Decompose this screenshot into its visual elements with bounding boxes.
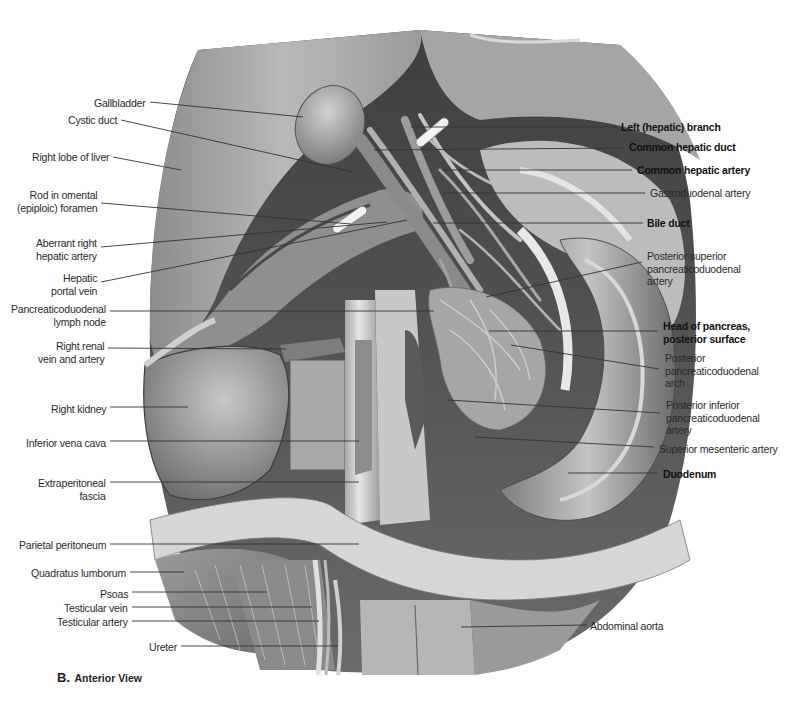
view-title: Anterior View bbox=[74, 672, 142, 684]
label-line: Ureter bbox=[149, 641, 177, 654]
label-line: Quadratus lumborum bbox=[31, 567, 126, 580]
label-line: Posterior inferior bbox=[666, 399, 760, 412]
label-right-kidney: Right kidney bbox=[51, 403, 106, 416]
label-line: fascia bbox=[38, 490, 106, 503]
label-abdominal-aorta: Abdominal aorta bbox=[590, 620, 663, 633]
label-cystic-duct: Cystic duct bbox=[68, 114, 117, 127]
label-right-lobe-of-liver: Right lobe of liver bbox=[32, 151, 109, 164]
label-line: lymph node bbox=[11, 316, 106, 329]
label-posterior-pancreaticoduodenal-arch: Posteriorpancreaticoduodenalarch bbox=[665, 352, 759, 390]
label-line: Abdominal aorta bbox=[590, 620, 663, 633]
label-line: arch bbox=[665, 377, 759, 390]
label-line: Gallbladder bbox=[94, 97, 146, 110]
label-line: Aberrant right bbox=[36, 237, 97, 250]
label-aberrant-right-hepatic-artery: Aberrant righthepatic artery bbox=[36, 237, 97, 262]
label-ureter: Ureter bbox=[149, 641, 177, 654]
label-line: Posterior bbox=[665, 352, 759, 365]
label-line: pancreaticoduodenal bbox=[647, 263, 741, 276]
label-inferior-vena-cava: Inferior vena cava bbox=[26, 437, 106, 450]
label-left-hepatic-branch: Left (hepatic) branch bbox=[621, 121, 721, 134]
label-line: vein and artery bbox=[38, 353, 104, 366]
label-line: Bile duct bbox=[647, 217, 690, 230]
label-extraperitoneal-fascia: Extraperitonealfascia bbox=[38, 477, 106, 502]
label-common-hepatic-artery: Common hepatic artery bbox=[637, 164, 750, 177]
label-line: hepatic artery bbox=[36, 250, 97, 263]
label-superior-mesenteric-artery: Superior mesenteric artery bbox=[659, 443, 778, 456]
label-line: Right lobe of liver bbox=[32, 151, 109, 164]
label-line: Testicular artery bbox=[57, 616, 128, 629]
label-line: Left (hepatic) branch bbox=[621, 121, 721, 134]
panel-letter: B. bbox=[57, 670, 70, 685]
label-testicular-vein: Testicular vein bbox=[64, 602, 128, 615]
label-line: artery bbox=[647, 275, 741, 288]
label-hepatic-portal-vein: Hepaticportal vein bbox=[51, 272, 97, 297]
label-line: Common hepatic duct bbox=[629, 141, 735, 154]
label-line: Common hepatic artery bbox=[637, 164, 750, 177]
label-head-of-pancreas-posterior-surface: Head of pancreas,posterior surface bbox=[663, 320, 750, 345]
label-right-renal-vein-and-artery: Right renalvein and artery bbox=[38, 340, 104, 365]
label-line: posterior surface bbox=[663, 333, 750, 346]
label-gallbladder: Gallbladder bbox=[94, 97, 146, 110]
label-line: Posterior superior bbox=[647, 250, 741, 263]
label-gastroduodenal-artery: Gastroduodenal artery bbox=[650, 187, 750, 200]
label-line: artery bbox=[666, 424, 760, 437]
label-posterior-inferior-pancreaticoduodenal-artery: Posterior inferiorpancreaticoduodenalart… bbox=[666, 399, 760, 437]
label-posterior-superior-pancreaticoduodenal-artery: Posterior superiorpancreaticoduodenalart… bbox=[647, 250, 741, 288]
label-line: Gastroduodenal artery bbox=[650, 187, 750, 200]
anatomy-figure: GallbladderCystic ductRight lobe of live… bbox=[0, 0, 801, 715]
label-line: Testicular vein bbox=[64, 602, 128, 615]
label-line: Inferior vena cava bbox=[26, 437, 106, 450]
label-line: portal vein bbox=[51, 285, 97, 298]
label-line: Psoas bbox=[100, 588, 128, 601]
label-pancreaticoduodenal-lymph-node: Pancreaticoduodenallymph node bbox=[11, 303, 106, 328]
label-line: pancreaticoduodenal bbox=[666, 412, 760, 425]
renal-fat bbox=[290, 360, 345, 470]
label-quadratus-lumborum: Quadratus lumborum bbox=[31, 567, 126, 580]
label-line: Hepatic bbox=[51, 272, 97, 285]
label-line: Superior mesenteric artery bbox=[659, 443, 778, 456]
label-line: Right kidney bbox=[51, 403, 106, 416]
label-line: pancreaticoduodenal bbox=[665, 365, 759, 378]
label-testicular-artery: Testicular artery bbox=[57, 616, 128, 629]
label-duodenum: Duodenum bbox=[663, 468, 716, 481]
label-line: Extraperitoneal bbox=[38, 477, 106, 490]
label-line: Pancreaticoduodenal bbox=[11, 303, 106, 316]
label-parietal-peritoneum: Parietal peritoneum bbox=[19, 539, 106, 552]
label-line: Cystic duct bbox=[68, 114, 117, 127]
label-bile-duct: Bile duct bbox=[647, 217, 690, 230]
label-line: Duodenum bbox=[663, 468, 716, 481]
label-line: Head of pancreas, bbox=[663, 320, 750, 333]
ivc-dark-channel bbox=[355, 340, 372, 475]
label-rod-in-omental-epiploic-foramen: Rod in omental(epiploic) foramen bbox=[17, 189, 97, 214]
figure-caption: B. Anterior View bbox=[57, 668, 142, 686]
label-line: Parietal peritoneum bbox=[19, 539, 106, 552]
label-line: (epiploic) foramen bbox=[17, 202, 97, 215]
label-line: Rod in omental bbox=[17, 189, 97, 202]
label-psoas: Psoas bbox=[100, 588, 128, 601]
label-line: Right renal bbox=[38, 340, 104, 353]
label-common-hepatic-duct: Common hepatic duct bbox=[629, 141, 735, 154]
